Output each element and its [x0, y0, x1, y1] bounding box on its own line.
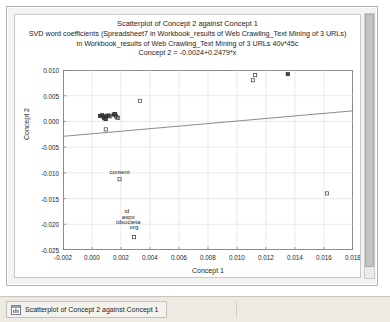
x-axis-tick-label: 0.002	[113, 254, 129, 261]
vertical-scrollbar[interactable]	[364, 13, 375, 279]
data-point	[254, 74, 257, 77]
x-axis-tick-label: 0.014	[287, 254, 303, 261]
chart-subtitle-line-1: SVD word coefficients (Spreadsheet7 in W…	[15, 29, 360, 39]
y-axis-tick-label: 0.005	[43, 92, 59, 99]
data-point	[251, 79, 254, 82]
y-axis-tick-label: -0.010	[41, 169, 59, 176]
x-axis-tick-label: 0.000	[84, 254, 100, 261]
data-point	[132, 236, 135, 239]
taskbar: Scatterplot of Concept 2 against Concept…	[0, 296, 390, 322]
x-axis-tick-label: -0.002	[54, 254, 72, 261]
y-axis-title: Concept 2	[23, 108, 30, 140]
taskbar-divider	[236, 301, 237, 318]
regression-equation: Concept 2 = -0.0024+0.2479*x	[15, 48, 360, 58]
data-point	[104, 118, 107, 121]
taskbar-button-scatterplot[interactable]: Scatterplot of Concept 2 against Concept…	[6, 301, 167, 318]
x-axis-tick-label: 0.018	[345, 254, 361, 261]
plot-canvas: Scatterplot of Concept 2 against Concept…	[14, 14, 361, 278]
y-axis-tick-label: 0.010	[43, 67, 59, 74]
x-axis-tick-label: 0.010	[229, 254, 245, 261]
data-point	[138, 99, 141, 102]
x-axis-tick-label: 0.008	[200, 254, 216, 261]
data-point	[286, 73, 289, 76]
chart-title: Scatterplot of Concept 2 against Concept…	[15, 19, 360, 29]
y-axis-tick-label: -0.015	[41, 195, 59, 202]
x-axis-tick-labels: -0.0020.0000.0020.0040.0060.0080.0100.01…	[63, 254, 353, 266]
y-axis-tick-label: -0.025	[41, 247, 59, 254]
x-axis-title: Concept 1	[63, 267, 353, 274]
data-point	[325, 192, 328, 195]
data-point-label: org	[130, 223, 140, 230]
data-point-label: content	[109, 168, 130, 175]
x-axis-tick-label: 0.012	[258, 254, 274, 261]
chart-subtitle-line-2: in Workbook_results of Web Crawling_Text…	[15, 39, 360, 49]
plot-region[interactable]: contentidaspxidsocietaorg	[63, 70, 353, 250]
taskbar-button-label: Scatterplot of Concept 2 against Concept…	[25, 306, 158, 313]
vertical-scrollbar-thumb[interactable]	[365, 14, 374, 267]
data-point	[118, 178, 121, 181]
chart-title-block: Scatterplot of Concept 2 against Concept…	[15, 19, 360, 58]
scatter-plot-svg: contentidaspxidsocietaorg	[63, 70, 353, 250]
y-axis-tick-labels: 0.0100.0050.000-0.005-0.010-0.015-0.020-…	[23, 70, 59, 250]
plot-window: Scatterplot of Concept 2 against Concept…	[6, 6, 378, 286]
chart-window-icon	[11, 305, 21, 315]
data-point	[104, 128, 107, 131]
y-axis-tick-label: 0.000	[43, 118, 59, 125]
x-axis-tick-label: 0.004	[142, 254, 158, 261]
x-axis-tick-label: 0.016	[316, 254, 332, 261]
desktop-background: Scatterplot of Concept 2 against Concept…	[0, 0, 390, 322]
x-axis-tick-label: 0.006	[171, 254, 187, 261]
y-axis-tick-label: -0.005	[41, 144, 59, 151]
y-axis-tick-label: -0.020	[41, 221, 59, 228]
